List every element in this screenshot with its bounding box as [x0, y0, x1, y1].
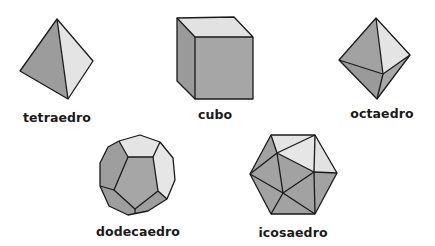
icosahedron-shape [250, 135, 337, 214]
icosahedron-label: icosaedro [258, 225, 327, 240]
tetrahedron-label: tetraedro [23, 110, 91, 125]
dodecahedron-label: dodecaedro [96, 224, 180, 239]
dodecahedron-shape [100, 135, 175, 215]
cube-label: cubo [198, 107, 232, 122]
tetrahedron-shape [20, 19, 93, 99]
octahedron-label: octaedro [350, 106, 413, 121]
cube-shape [177, 17, 253, 99]
octahedron-shape [339, 18, 410, 99]
